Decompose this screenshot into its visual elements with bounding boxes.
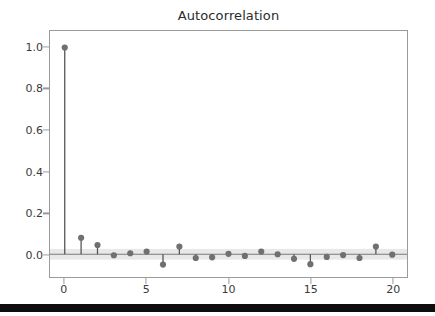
- x-tick-label: 20: [386, 283, 400, 296]
- acf-stem: [324, 254, 330, 260]
- x-tick-label: 0: [60, 283, 67, 296]
- x-tick-mark: [146, 278, 147, 284]
- y-tick-mark: [43, 129, 49, 130]
- acf-stem: [340, 252, 346, 258]
- data-point-marker: [373, 244, 379, 250]
- y-tick-label: 0.8: [3, 82, 43, 95]
- acf-plot-canvas: [50, 31, 407, 277]
- acf-stem: [242, 253, 248, 259]
- acf-stem: [144, 248, 150, 254]
- data-point-marker: [62, 44, 68, 50]
- data-point-marker: [193, 255, 199, 261]
- acf-figure: Autocorrelation 0.00.20.40.60.81.0 05101…: [0, 0, 435, 316]
- y-tick-mark: [43, 254, 49, 255]
- y-tick-label: 0.4: [3, 165, 43, 178]
- data-point-marker: [78, 235, 84, 241]
- acf-stem: [275, 251, 281, 257]
- y-tick-label: 0.2: [3, 207, 43, 220]
- x-tick-mark: [63, 278, 64, 284]
- data-point-marker: [242, 253, 248, 259]
- data-point-marker: [389, 252, 395, 258]
- y-tick-mark: [43, 213, 49, 214]
- x-tick-label: 10: [222, 283, 236, 296]
- y-tick-mark: [43, 88, 49, 89]
- y-tick-label: 0.0: [3, 249, 43, 262]
- data-point-marker: [176, 244, 182, 250]
- acf-stem: [62, 44, 68, 254]
- data-point-marker: [307, 261, 313, 267]
- data-point-marker: [111, 252, 117, 258]
- acf-stem: [389, 252, 395, 258]
- data-point-marker: [225, 251, 231, 257]
- data-point-marker: [340, 252, 346, 258]
- data-point-marker: [275, 251, 281, 257]
- acf-stem: [111, 252, 117, 258]
- x-tick-mark: [393, 278, 394, 284]
- data-point-marker: [258, 248, 264, 254]
- data-point-marker: [144, 248, 150, 254]
- acf-stem: [209, 254, 215, 260]
- x-tick-mark: [310, 278, 311, 284]
- y-tick-label: 1.0: [3, 40, 43, 53]
- data-point-marker: [160, 262, 166, 268]
- data-point-marker: [209, 254, 215, 260]
- data-point-marker: [324, 254, 330, 260]
- plot-axes: [49, 30, 408, 278]
- data-point-marker: [291, 256, 297, 262]
- acf-stem: [258, 248, 264, 254]
- x-tick-label: 5: [143, 283, 150, 296]
- data-point-marker: [356, 255, 362, 261]
- bottom-bar: [0, 304, 435, 312]
- page-title: Autocorrelation: [49, 8, 408, 23]
- x-tick-mark: [228, 278, 229, 284]
- x-tick-label: 15: [304, 283, 318, 296]
- y-tick-mark: [43, 46, 49, 47]
- data-point-marker: [127, 250, 133, 256]
- acf-stem: [225, 251, 231, 257]
- acf-stem: [127, 250, 133, 256]
- y-tick-label: 0.6: [3, 124, 43, 137]
- data-point-marker: [94, 242, 100, 248]
- y-tick-mark: [43, 171, 49, 172]
